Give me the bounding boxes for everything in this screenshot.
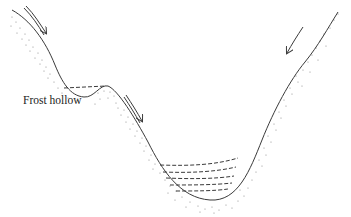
arrow-upper-left-icon [24, 6, 46, 35]
valley-cross-section-diagram [0, 0, 351, 217]
valley-cold-air-pool [160, 158, 238, 191]
arrow-right-slope-icon [287, 27, 303, 53]
arrow-mid-slope-icon [124, 95, 142, 123]
frost-hollow-cold-air-layer [64, 86, 106, 88]
frost-hollow-label: Frost hollow [23, 94, 81, 106]
soil-stipple [10, 13, 338, 213]
